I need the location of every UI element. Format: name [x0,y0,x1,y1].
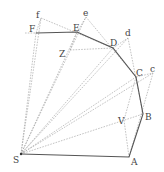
label-C: C [136,68,143,78]
dashed-line-S-D [21,48,113,154]
label-B: B [145,112,152,122]
label-e: e [83,8,88,18]
dashed-line-S-F [21,33,36,154]
dashed-line-S-B [21,114,143,154]
dashed-line-Z-E [70,32,77,50]
polygon-construction-diagram: SABCDEFfedcVZ [0,0,164,172]
construction-lines [21,17,153,157]
origin-point-dot [20,153,22,155]
label-d: d [125,28,131,38]
label-D: D [110,38,117,48]
dashed-line-F-f [36,18,41,33]
dashed-line-Z-D [70,48,113,50]
label-A: A [130,157,138,167]
label-Z: Z [59,49,65,59]
polygon-path [21,32,143,157]
label-E: E [73,23,80,33]
polygon-outline [21,32,143,157]
label-S: S [13,155,19,165]
dashed-line-V-A [124,120,129,157]
label-V: V [117,116,125,126]
label-f: f [36,10,40,20]
label-c: c [150,64,155,74]
dashed-line-S-c [21,73,153,154]
label-F: F [29,24,35,34]
dashed-line-S-E [21,32,77,154]
dashed-line-C-V [124,77,136,120]
vertex-points [20,153,22,155]
